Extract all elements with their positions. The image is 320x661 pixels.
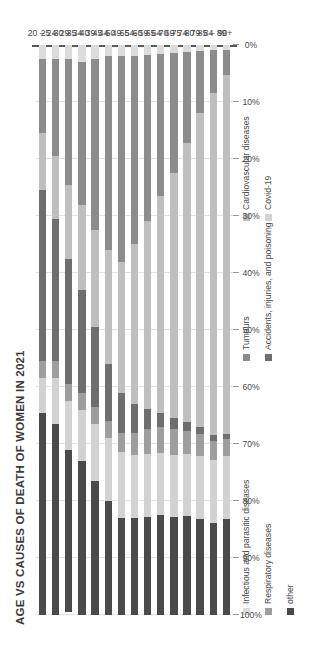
bar-segment[interactable] <box>52 156 59 219</box>
bar-segment[interactable] <box>118 518 125 615</box>
bar-segment[interactable] <box>223 75 230 434</box>
bar-segment[interactable] <box>157 196 164 413</box>
bar-segment[interactable] <box>131 244 138 404</box>
bar-segment[interactable] <box>170 53 177 173</box>
bar-segment[interactable] <box>223 434 230 439</box>
bar-segment[interactable] <box>196 434 203 457</box>
bar-row[interactable] <box>105 45 112 615</box>
bar-row[interactable] <box>196 45 203 615</box>
bar-segment[interactable] <box>78 45 85 62</box>
bar-segment[interactable] <box>210 93 217 435</box>
bar-segment[interactable] <box>183 422 190 431</box>
bar-row[interactable] <box>78 45 85 615</box>
bar-segment[interactable] <box>39 45 46 59</box>
bar-segment[interactable] <box>91 59 98 230</box>
bar-segment[interactable] <box>157 413 164 427</box>
bar-segment[interactable] <box>131 518 138 615</box>
bar-segment[interactable] <box>65 259 72 384</box>
bar-row[interactable] <box>65 45 72 615</box>
bar-segment[interactable] <box>78 410 85 461</box>
bar-segment[interactable] <box>183 454 190 517</box>
bar-row[interactable] <box>131 45 138 615</box>
bar-segment[interactable] <box>105 45 112 56</box>
bar-row[interactable] <box>210 45 217 615</box>
bar-segment[interactable] <box>144 45 151 55</box>
bar-segment[interactable] <box>196 51 203 114</box>
bar-segment[interactable] <box>210 50 217 93</box>
bar-segment[interactable] <box>183 143 190 422</box>
bar-segment[interactable] <box>78 393 85 410</box>
bar-segment[interactable] <box>183 52 190 143</box>
bar-segment[interactable] <box>39 133 46 190</box>
bar-segment[interactable] <box>118 56 125 261</box>
bar-row[interactable] <box>91 45 98 615</box>
bar-segment[interactable] <box>65 401 72 449</box>
bar-segment[interactable] <box>157 45 164 54</box>
bar-segment[interactable] <box>144 55 151 220</box>
bar-segment[interactable] <box>210 45 217 50</box>
bar-segment[interactable] <box>105 501 112 615</box>
bar-segment[interactable] <box>196 113 203 427</box>
bar-segment[interactable] <box>223 50 230 76</box>
bar-segment[interactable] <box>196 519 203 615</box>
bar-segment[interactable] <box>52 45 59 59</box>
bar-segment[interactable] <box>144 517 151 615</box>
bar-segment[interactable] <box>170 455 177 518</box>
legend-item[interactable]: Respiratory diseases <box>264 524 273 615</box>
bar-segment[interactable] <box>131 56 138 244</box>
legend-item[interactable]: Accidents, injuries, and poisoning <box>264 222 273 361</box>
bar-segment[interactable] <box>78 290 85 393</box>
bar-segment[interactable] <box>144 221 151 409</box>
bar-segment[interactable] <box>157 453 164 516</box>
bar-segment[interactable] <box>39 378 46 412</box>
bar-segment[interactable] <box>105 364 112 421</box>
bar-segment[interactable] <box>65 384 72 401</box>
bar-segment[interactable] <box>78 461 85 615</box>
bar-segment[interactable] <box>105 438 112 501</box>
bar-segment[interactable] <box>91 45 98 59</box>
bar-segment[interactable] <box>196 45 203 51</box>
bar-segment[interactable] <box>131 455 138 518</box>
bar-segment[interactable] <box>170 418 177 429</box>
bar-segment[interactable] <box>131 45 138 56</box>
bar-segment[interactable] <box>210 461 217 524</box>
bar-segment[interactable] <box>39 190 46 361</box>
bar-segment[interactable] <box>65 450 72 612</box>
bar-segment[interactable] <box>170 517 177 614</box>
bar-segment[interactable] <box>196 457 203 520</box>
bar-segment[interactable] <box>183 45 190 52</box>
bar-segment[interactable] <box>52 219 59 362</box>
legend-item[interactable]: Tumours <box>242 316 251 361</box>
bar-segment[interactable] <box>39 59 46 133</box>
bar-segment[interactable] <box>52 424 59 615</box>
bar-segment[interactable] <box>118 393 125 433</box>
bar-row[interactable] <box>170 45 177 615</box>
bar-segment[interactable] <box>183 431 190 454</box>
bar-segment[interactable] <box>65 185 72 259</box>
bar-segment[interactable] <box>131 433 138 456</box>
bar-row[interactable] <box>157 45 164 615</box>
bar-segment[interactable] <box>39 413 46 615</box>
bar-segment[interactable] <box>170 45 177 53</box>
legend-item[interactable]: other <box>286 584 295 615</box>
bar-segment[interactable] <box>118 433 125 453</box>
bar-segment[interactable] <box>210 523 217 615</box>
bar-segment[interactable] <box>52 59 59 156</box>
bar-row[interactable] <box>223 45 230 615</box>
bar-segment[interactable] <box>105 56 112 250</box>
bar-segment[interactable] <box>78 205 85 291</box>
bar-row[interactable] <box>144 45 151 615</box>
bar-segment[interactable] <box>39 361 46 378</box>
bar-segment[interactable] <box>157 515 164 615</box>
legend-item[interactable]: Cardiovascular diseases <box>242 116 251 221</box>
bar-segment[interactable] <box>157 54 164 197</box>
bar-segment[interactable] <box>105 421 112 438</box>
bar-segment[interactable] <box>144 454 151 517</box>
bar-segment[interactable] <box>65 59 72 184</box>
bar-row[interactable] <box>118 45 125 615</box>
bar-segment[interactable] <box>52 378 59 424</box>
bar-row[interactable] <box>52 45 59 615</box>
bar-segment[interactable] <box>170 429 177 455</box>
bar-segment[interactable] <box>91 327 98 407</box>
bar-segment[interactable] <box>91 230 98 327</box>
